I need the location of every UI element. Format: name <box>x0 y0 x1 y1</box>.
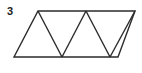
triangle-strip-diagram <box>0 0 142 73</box>
diagonal-4-line <box>110 11 135 57</box>
figure-container: 3 <box>0 0 142 73</box>
diagonal-2-line <box>62 11 86 57</box>
diagonal-3-line <box>86 11 110 57</box>
diagonal-1-line <box>38 11 62 57</box>
